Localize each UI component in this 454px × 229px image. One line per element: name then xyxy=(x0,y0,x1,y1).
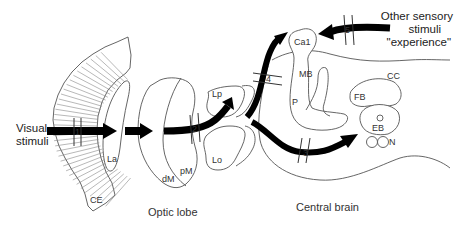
other-stimuli-line-2: stimuli xyxy=(408,23,441,35)
lobula xyxy=(204,126,245,170)
gate-3-label: 3 xyxy=(303,148,308,158)
arrow-other-sensory xyxy=(330,27,390,32)
gate-4: 4 xyxy=(253,73,282,85)
label-p: P xyxy=(292,97,298,107)
caption-central-brain: Central brain xyxy=(296,201,359,213)
gate-5: 5 xyxy=(344,15,354,45)
caption-optic-lobe: Optic lobe xyxy=(148,206,198,218)
noduli-left xyxy=(367,137,378,148)
label-ca1: Ca1 xyxy=(294,37,311,47)
label-eb: EB xyxy=(372,123,384,133)
visual-stimuli-text: Visual stimuli xyxy=(16,122,49,147)
label-n: N xyxy=(389,137,396,147)
gate-5-label: 5 xyxy=(345,25,350,35)
gate-1-label: 1 xyxy=(75,127,80,137)
arrow-to-calyx xyxy=(247,38,280,117)
visual-stimuli-line-1: Visual xyxy=(16,122,47,134)
label-dm: dM xyxy=(162,174,175,184)
gate-3: 3 xyxy=(298,138,310,163)
noduli-right xyxy=(378,137,389,148)
label-ce: CE xyxy=(90,195,103,205)
other-stimuli-text: Other sensory stimuli "experience" xyxy=(381,10,453,48)
visual-pathway-diagram: 1 2 3 4 5 CE La dM pM Lp Lo Ca1 MB P CC … xyxy=(0,0,454,229)
arrow-other-sensory-head xyxy=(318,24,334,40)
gate-2-label: 2 xyxy=(192,124,197,134)
gate-4-label: 4 xyxy=(266,74,271,84)
other-stimuli-line-1: Other sensory xyxy=(381,10,453,22)
label-lp: Lp xyxy=(212,89,222,99)
label-mb: MB xyxy=(299,69,313,79)
label-pm: pM xyxy=(180,166,193,176)
ellipsoid-body-hole xyxy=(377,115,383,121)
central-brain-left-edge xyxy=(259,66,450,180)
label-lo: Lo xyxy=(212,155,222,165)
label-fb: FB xyxy=(354,92,366,102)
label-cc: CC xyxy=(387,71,400,81)
label-la: La xyxy=(107,154,117,164)
other-stimuli-line-3: "experience" xyxy=(387,36,451,48)
visual-stimuli-line-2: stimuli xyxy=(16,135,49,147)
